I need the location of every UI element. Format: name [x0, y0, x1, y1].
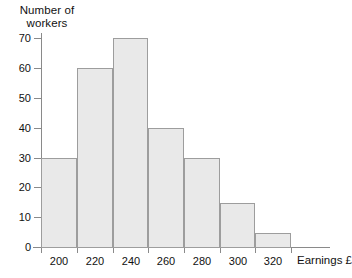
bar-310-330	[255, 233, 291, 248]
y-tick-mark-50	[34, 98, 41, 99]
bar-190-210	[41, 158, 77, 248]
bar-290-310	[220, 203, 255, 248]
x-tick-label-280: 280	[182, 255, 222, 267]
x-axis-title: Earnings £	[297, 254, 352, 267]
y-tick-mark-20	[34, 187, 41, 188]
x-tick-mark-190	[41, 248, 42, 253]
y-tick-mark-0	[34, 247, 41, 248]
y-tick-label-10: 10	[0, 212, 31, 223]
x-tick-label-320: 320	[253, 255, 293, 267]
y-tick-label-30: 30	[0, 153, 31, 164]
x-tick-mark-310	[255, 248, 256, 253]
y-tick-label-50: 50	[0, 93, 31, 104]
y-tick-mark-10	[34, 217, 41, 218]
y-tick-mark-40	[34, 128, 41, 129]
y-tick-label-70: 70	[0, 33, 31, 44]
x-tick-label-300: 300	[218, 255, 258, 267]
x-tick-mark-230	[113, 248, 114, 253]
y-tick-label-0: 0	[0, 242, 31, 253]
bar-250-270	[148, 128, 184, 248]
y-axis-title-line-2: workers	[4, 17, 90, 30]
bar-210-230	[77, 68, 113, 248]
x-tick-label-260: 260	[146, 255, 186, 267]
y-axis-title-line-1: Number of	[4, 4, 90, 17]
y-tick-mark-70	[34, 38, 41, 39]
bar-230-250	[113, 38, 148, 248]
y-tick-label-40: 40	[0, 123, 31, 134]
y-tick-mark-30	[34, 158, 41, 159]
y-axis-title: Number of workers	[4, 4, 90, 30]
x-tick-mark-290	[220, 248, 221, 253]
x-tick-label-200: 200	[39, 255, 79, 267]
bar-270-290	[184, 158, 220, 248]
x-tick-mark-210	[77, 248, 78, 253]
x-tick-label-220: 220	[75, 255, 115, 267]
y-tick-label-60: 60	[0, 63, 31, 74]
x-tick-label-240: 240	[111, 255, 151, 267]
x-tick-mark-250	[148, 248, 149, 253]
y-tick-mark-60	[34, 68, 41, 69]
x-tick-mark-270	[184, 248, 185, 253]
x-tick-mark-330	[291, 248, 292, 253]
y-tick-label-20: 20	[0, 182, 31, 193]
